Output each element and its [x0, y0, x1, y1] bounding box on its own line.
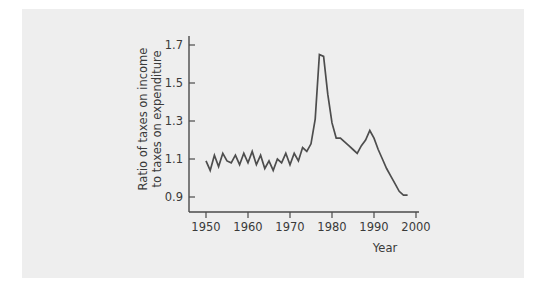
data-series-line	[206, 55, 408, 196]
y-ticklabel-1.1: 1.1	[165, 152, 183, 166]
x-axis-ticks	[206, 212, 416, 218]
y-axis-tick-labels: 1.7 1.5 1.3 1.1 0.9	[165, 38, 183, 204]
x-ticklabel-2000: 2000	[401, 220, 430, 234]
line-chart-svg: Ratio of taxes on income to taxes on exp…	[0, 0, 546, 287]
y-axis-ticks	[189, 45, 195, 197]
x-ticklabel-1970: 1970	[275, 220, 304, 234]
x-axis-title: Year	[372, 241, 398, 255]
x-ticklabel-1980: 1980	[317, 220, 346, 234]
y-ticklabel-1.3: 1.3	[165, 114, 183, 128]
y-ticklabel-1.5: 1.5	[165, 76, 183, 90]
y-axis-title-line1: Ratio of taxes on income	[136, 48, 150, 191]
x-ticklabel-1990: 1990	[359, 220, 388, 234]
chart-container: Ratio of taxes on income to taxes on exp…	[0, 0, 546, 287]
y-ticklabel-1.7: 1.7	[165, 38, 183, 52]
y-axis-title-line2: to taxes on expenditure	[150, 50, 164, 187]
y-ticklabel-0.9: 0.9	[165, 190, 183, 204]
x-ticklabel-1960: 1960	[233, 220, 262, 234]
x-ticklabel-1950: 1950	[191, 220, 220, 234]
x-axis-tick-labels: 1950 1960 1970 1980 1990 2000	[191, 220, 430, 234]
